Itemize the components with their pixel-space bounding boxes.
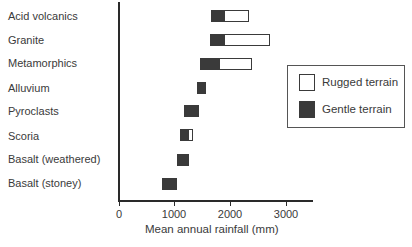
legend: Rugged terrain Gentle terrain [287,65,405,128]
legend-swatch-gentle [299,101,315,118]
bar-rugged-granite [224,34,270,46]
legend-label-rugged: Rugged terrain [322,76,398,88]
legend-label-gentle: Gentle terrain [322,103,392,115]
x-tick-1000 [174,201,175,206]
category-label-scoria: Scoria [8,130,39,142]
category-label-alluvium: Alluvium [8,82,50,94]
bar-gentle-metamorphics [200,58,220,70]
y-axis-line [118,2,120,202]
category-label-pyroclasts: Pyroclasts [8,105,59,117]
bar-rugged-metamorphics [219,58,252,70]
bar-gentle-acid-volcanics [211,10,225,22]
category-label-basalt-stoney: Basalt (stoney) [8,177,81,189]
category-label-acid-volcanics: Acid volcanics [8,10,78,22]
bar-gentle-pyroclasts [184,105,199,117]
bar-rugged-acid-volcanics [224,10,249,22]
category-label-basalt-weathered: Basalt (weathered) [8,153,100,165]
x-tick-2000 [230,201,231,206]
bar-gentle-scoria [180,129,189,141]
x-tick-0 [119,201,120,206]
x-axis-line [118,200,313,202]
x-tick-label-0: 0 [116,208,122,220]
bar-gentle-granite [210,34,224,46]
category-label-granite: Granite [8,34,44,46]
x-tick-3000 [286,201,287,206]
bar-gentle-alluvium [197,82,206,94]
bar-gentle-basalt-weathered [177,154,189,166]
x-tick-label-2000: 2000 [218,208,242,220]
x-tick-label-1000: 1000 [162,208,186,220]
bar-gentle-basalt-stoney [162,178,177,190]
legend-swatch-rugged [299,74,315,91]
x-axis-title: Mean annual rainfall (mm) [145,223,279,235]
x-tick-label-3000: 3000 [274,208,298,220]
category-label-metamorphics: Metamorphics [8,57,77,69]
